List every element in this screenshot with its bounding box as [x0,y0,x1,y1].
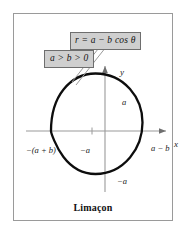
label-bottom-intercept: −a [117,177,127,186]
figure-frame: r = a − b cos θ a > b > 0 x y −(a + b) −… [13,13,173,221]
y-axis-arrowhead [102,66,108,73]
label-top-intercept: a [122,98,126,107]
formula-callout: r = a − b cos θ [70,32,141,50]
limacon-curve [51,74,143,175]
x-axis-arrowhead [159,128,166,134]
figure-page: r = a − b cos θ a > b > 0 x y −(a + b) −… [0,0,186,234]
x-axis-label: x [174,140,178,149]
y-axis-label: y [120,68,124,77]
x-axis [26,128,166,135]
label-left-tick: −a [80,146,90,155]
label-right-intercept: a − b [151,144,170,153]
figure-caption: Limaçon [14,202,172,213]
label-left-outer-intercept: −(a + b) [26,146,56,155]
plot-area: r = a − b cos θ a > b > 0 x y −(a + b) −… [14,14,172,220]
condition-callout: a > b > 0 [44,50,94,68]
